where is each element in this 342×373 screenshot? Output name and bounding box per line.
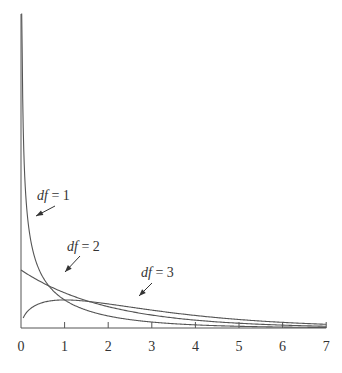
x-tick-label: 1 <box>61 339 68 354</box>
label-df2: df = 2 <box>67 239 100 254</box>
curve-df3 <box>23 300 326 324</box>
x-tick-label: 7 <box>323 339 330 354</box>
x-tick-label: 4 <box>192 339 199 354</box>
curve-df1 <box>21 14 326 327</box>
x-tick-label: 6 <box>279 339 286 354</box>
x-tick-label: 3 <box>148 339 155 354</box>
label-df3: df = 3 <box>141 265 174 280</box>
chart-svg: 01234567 df = 1df = 2df = 3 <box>0 0 342 373</box>
axes: 01234567 <box>18 14 330 354</box>
arrow-df1-head <box>36 210 43 216</box>
label-df1: df = 1 <box>37 188 70 203</box>
x-tick-label: 5 <box>236 339 243 354</box>
curves <box>21 14 326 327</box>
annotations: df = 1df = 2df = 3 <box>36 188 174 296</box>
chi-square-chart: 01234567 df = 1df = 2df = 3 <box>0 0 342 373</box>
x-tick-label: 0 <box>18 339 25 354</box>
x-tick-label: 2 <box>105 339 112 354</box>
